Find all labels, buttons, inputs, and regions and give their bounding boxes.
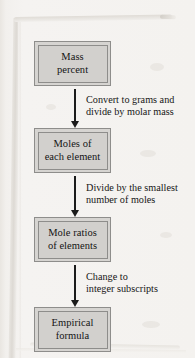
flowchart-node-mass-percent: Mass percent xyxy=(34,41,111,86)
arrow-label-line1: Change to xyxy=(86,271,158,283)
node-label-line2: each element xyxy=(45,151,101,163)
arrow-shaft xyxy=(74,176,76,211)
scan-speck xyxy=(46,104,56,110)
flowchart-node-label: Mass percent xyxy=(38,45,108,83)
flowchart-arrow-label-ratios-to-formula: Change to integer subscripts xyxy=(86,271,158,296)
node-label-line2: formula xyxy=(56,330,90,342)
flowchart-arrow-moles-to-ratios xyxy=(70,176,81,217)
arrow-head-down-icon xyxy=(71,121,79,128)
arrow-head-down-icon xyxy=(71,210,79,217)
flowchart-node-label: Mole ratios of elements xyxy=(38,221,108,259)
scan-speck xyxy=(140,150,156,157)
arrow-label-line1: Divide by the smallest xyxy=(86,182,178,194)
flowchart-node-label: Empirical formula xyxy=(38,311,108,349)
node-label-line1: Mass xyxy=(61,51,83,63)
scan-speck xyxy=(160,232,172,238)
page-edge-top-corner xyxy=(160,15,176,20)
page-edge-top-curve xyxy=(14,15,172,22)
node-label-line1: Mole ratios xyxy=(48,227,97,239)
node-label-line2: percent xyxy=(57,64,88,76)
flowchart-arrow-mass-to-moles xyxy=(70,89,81,128)
arrow-label-line2: number of moles xyxy=(86,194,178,206)
page-edge-left-inner xyxy=(18,22,21,358)
flowchart-node-mole-ratios: Mole ratios of elements xyxy=(34,217,111,262)
scan-speck xyxy=(142,321,160,328)
flowchart-arrow-label-moles-to-ratios: Divide by the smallest number of moles xyxy=(86,182,178,207)
scanned-page-background: Mass percent Convert to grams and divide… xyxy=(0,0,195,358)
flowchart-arrow-ratios-to-formula xyxy=(70,265,81,307)
arrow-shaft xyxy=(74,265,76,301)
scan-speck xyxy=(150,63,164,71)
flowchart-node-empirical-formula: Empirical formula xyxy=(34,307,111,352)
arrow-label-line2: divide by molar mass xyxy=(86,106,174,118)
flowchart-arrow-label-mass-to-moles: Convert to grams and divide by molar mas… xyxy=(86,94,174,119)
node-label-line2: of elements xyxy=(48,240,97,252)
node-label-line1: Empirical xyxy=(52,317,94,329)
flowchart-node-label: Moles of each element xyxy=(38,132,108,170)
arrow-head-down-icon xyxy=(71,300,79,307)
arrow-label-line1: Convert to grams and xyxy=(86,94,174,106)
flowchart-node-moles-each-element: Moles of each element xyxy=(34,128,111,173)
node-label-line1: Moles of xyxy=(53,138,91,150)
arrow-label-line2: integer subscripts xyxy=(86,283,158,295)
arrow-shaft xyxy=(74,89,76,122)
